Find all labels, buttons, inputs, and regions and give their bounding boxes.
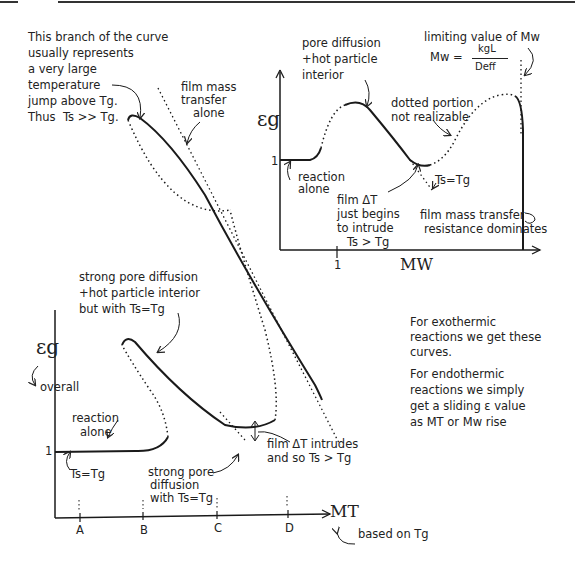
x-tick-d: D (285, 521, 294, 535)
note-line: Thus Ts >> Tg. (28, 110, 119, 124)
endothermic-note: reactions we simply (410, 383, 524, 397)
strong-pore-hot-label: strong pore diffusion (79, 270, 198, 284)
endothermic-note: as MT or Mw rise (410, 415, 507, 429)
inset-x-tick: 1 (334, 258, 341, 272)
exothermic-note: reactions we get these (410, 330, 541, 344)
note-line: temperature (28, 78, 100, 92)
strong-pore-hot-label: +hot particle interior (79, 286, 200, 300)
endothermic-note: get a sliding ε value (410, 399, 526, 413)
main-reaction-alone: reaction (72, 411, 119, 425)
exothermic-note: For exothermic (410, 315, 496, 329)
formula-bar (472, 58, 508, 59)
film-resistance-label: resistance dominates (424, 222, 547, 236)
endothermic-note: For endothermic (410, 367, 504, 381)
note-line: usually represents (28, 46, 134, 60)
main-x-label: MT (330, 504, 359, 518)
inset-reaction-alone: alone (298, 182, 330, 196)
main-y-tick: 1 (45, 444, 52, 458)
main-y-label: εg (36, 340, 59, 354)
film-dt-label: to intrude (337, 221, 394, 235)
label-line: film mass (181, 80, 237, 94)
film-resistance-label: film mass transfer (420, 208, 525, 222)
formula-denominator: Deff (475, 60, 496, 74)
strong-pore-label: with Ts=Tg (150, 491, 213, 505)
film-dt-label: just begins (337, 207, 400, 221)
strong-pore-label: diffusion (150, 478, 199, 492)
note-line: jump above Tg. (28, 94, 118, 108)
label-line: alone (193, 106, 225, 120)
inset-ts-eq-tg: Ts=Tg (435, 173, 470, 187)
x-tick-a: A (76, 523, 84, 537)
pore-diffusion-label: +hot particle (302, 52, 378, 66)
main-reaction-alone: alone (80, 425, 112, 439)
dotted-portion-label: dotted portion (391, 96, 473, 110)
main-x-axis (55, 514, 330, 518)
film-dt-intrudes-label: and so Ts > Tg (267, 451, 351, 465)
strong-pore-label: strong pore (148, 465, 214, 479)
film-dt-label: film ΔT (337, 193, 377, 207)
formula-lhs: Mw = (430, 50, 463, 64)
dotted-portion-label: not realizable (391, 110, 469, 124)
x-tick-b: B (140, 523, 148, 537)
formula-numerator: kgL (478, 42, 496, 56)
note-line: a very large (28, 62, 97, 76)
strong-pore-hot-label: but with Ts=Tg (79, 302, 165, 316)
main-ts-eq-tg: Ts=Tg (70, 467, 105, 481)
exothermic-note: curves. (410, 345, 452, 359)
main-x-note: based on Tg (358, 527, 429, 541)
main-y-sub-label: overall (40, 380, 79, 394)
film-dt-intrudes-label: film ΔT intrudes (267, 437, 358, 451)
label-line: transfer (181, 93, 226, 107)
inset-x-label: MW (400, 258, 433, 272)
pore-diffusion-label: pore diffusion (302, 36, 381, 50)
film-dt-label: Ts > Tg (347, 235, 389, 249)
pore-diffusion-label: interior (302, 68, 344, 82)
note-line: This branch of the curve (28, 30, 168, 44)
x-tick-c: C (214, 521, 222, 535)
inset-y-tick: 1 (271, 154, 278, 168)
inset-y-label: εg (257, 112, 280, 126)
